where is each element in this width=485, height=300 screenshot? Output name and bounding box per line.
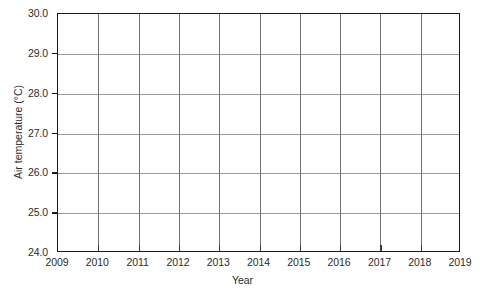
y-axis-title: Air temperature (°C) [12, 52, 24, 212]
gridline-vertical [179, 14, 180, 251]
y-tick-label: 26.0 [28, 167, 48, 178]
y-tick-label: 28.0 [28, 88, 48, 99]
x-tick-label: 2016 [319, 256, 359, 268]
gridline-vertical [219, 14, 220, 251]
x-tick-mark [300, 245, 301, 251]
x-tick-label: 2017 [359, 256, 399, 268]
x-tick-mark [380, 245, 381, 251]
gridline-horizontal [58, 213, 459, 214]
x-tick-label: 2018 [400, 256, 440, 268]
y-tick-mark [52, 93, 57, 94]
x-tick-label: 2012 [158, 256, 198, 268]
gridline-vertical [260, 14, 261, 251]
y-tick-mark [52, 172, 57, 173]
gridline-vertical [300, 14, 301, 251]
air-temperature-chart: 30.0 29.0 28.0 27.0 26.0 25.0 24.0 2009 … [0, 0, 485, 300]
x-axis-title: Year [0, 274, 485, 286]
x-tick-mark [219, 245, 220, 251]
x-tick-label: 2019 [440, 256, 480, 268]
x-tick-mark [139, 245, 140, 251]
x-tick-mark [179, 245, 180, 251]
x-tick-mark [98, 245, 99, 251]
y-tick-mark [52, 133, 57, 134]
y-tick-label: 29.0 [28, 48, 48, 59]
x-tick-label: 2009 [37, 256, 77, 268]
y-tick-label: 25.0 [28, 207, 48, 218]
gridline-vertical [98, 14, 99, 251]
x-tick-mark [421, 245, 422, 251]
gridline-horizontal [58, 54, 459, 55]
gridline-vertical [380, 14, 381, 251]
x-tick-label: 2015 [279, 256, 319, 268]
y-tick-label: 27.0 [28, 128, 48, 139]
x-tick-mark [340, 245, 341, 251]
y-tick-mark [52, 212, 57, 213]
x-tick-mark [260, 245, 261, 251]
x-tick-label: 2011 [118, 256, 158, 268]
gridline-vertical [139, 14, 140, 251]
x-tick-label: 2014 [239, 256, 279, 268]
gridline-horizontal [58, 134, 459, 135]
gridline-horizontal [58, 94, 459, 95]
y-tick-mark [52, 53, 57, 54]
y-tick-label: 30.0 [28, 8, 48, 19]
gridline-horizontal [58, 173, 459, 174]
plot-area [57, 13, 460, 252]
gridline-vertical [340, 14, 341, 251]
gridline-vertical [421, 14, 422, 251]
x-tick-label: 2010 [77, 256, 117, 268]
x-tick-label: 2013 [198, 256, 238, 268]
